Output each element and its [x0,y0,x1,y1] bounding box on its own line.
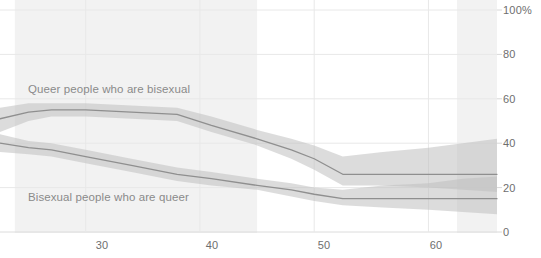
x-tick-label-30: 30 [82,239,122,251]
y-tick-label-100: 100% [503,4,532,16]
y-tick-label-60: 60 [503,93,516,105]
y-tick-label-20: 20 [503,182,516,194]
line-chart-canvas [0,0,541,258]
y-tick-label-40: 40 [503,137,516,149]
y-tick-label-0: 0 [503,226,509,238]
x-tick-label-60: 60 [416,239,456,251]
x-tick-label-40: 40 [192,239,232,251]
y-tick-label-80: 80 [503,48,516,60]
series-label-bisexual-people-who-are-queer: Bisexual people who are queer [28,191,189,203]
x-tick-label-50: 50 [304,239,344,251]
chart-root: 100% 80 60 40 20 0 30 40 50 60 Queer peo… [0,0,541,258]
series-label-queer-people-who-are-bisexual: Queer people who are bisexual [28,83,190,95]
